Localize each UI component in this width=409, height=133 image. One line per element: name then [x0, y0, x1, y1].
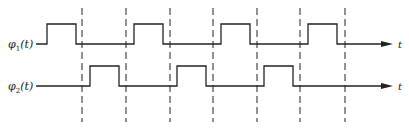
- phi1-label: φ1(t): [8, 38, 33, 53]
- phi1-arrow-icon: [381, 41, 393, 47]
- phi1-time-axis-label: t: [398, 39, 403, 50]
- phi2-label: φ2(t): [8, 80, 33, 95]
- sampling-dashed-lines: [82, 8, 345, 122]
- waveforms: [36, 24, 393, 89]
- phi2-waveform: [36, 66, 385, 86]
- phi1-waveform: [36, 24, 385, 44]
- timing-diagram: φ1(t) φ2(t) t t: [0, 0, 409, 133]
- phi2-arrow-icon: [381, 83, 393, 89]
- phi2-time-axis-label: t: [398, 81, 403, 92]
